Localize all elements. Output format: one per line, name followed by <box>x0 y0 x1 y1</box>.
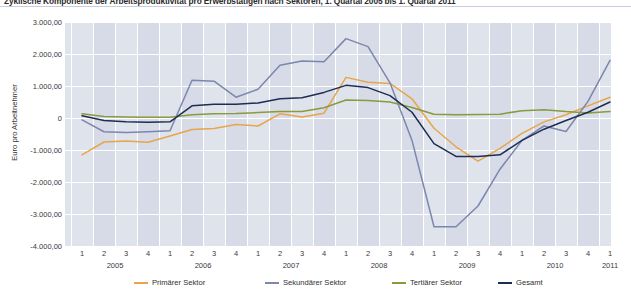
legend-item[interactable]: Sekundärer Sektor <box>265 277 346 289</box>
legend-item[interactable]: Tertiärer Sektor <box>392 277 462 289</box>
y-axis-tick: -2.000,00 <box>2 178 62 187</box>
legend-color-swatch <box>265 282 279 284</box>
x-axis-tick: 1 <box>72 249 92 259</box>
x-axis-tick: 4 <box>402 249 422 259</box>
series-line <box>82 77 610 161</box>
x-axis-tick: 3 <box>204 249 224 259</box>
y-axis-tick: -1.000,00 <box>2 146 62 155</box>
legend-color-swatch <box>392 282 406 284</box>
x-axis-year-label: 2010 <box>532 261 578 271</box>
x-axis-tick: 2 <box>182 249 202 259</box>
x-axis-tick: 1 <box>248 249 268 259</box>
x-axis-tick: 3 <box>380 249 400 259</box>
x-axis-tick: 1 <box>424 249 444 259</box>
legend-color-swatch <box>498 282 512 285</box>
series-line <box>82 100 610 117</box>
gridline <box>65 246 611 247</box>
y-axis-tick: -4.000,00 <box>2 242 62 251</box>
x-axis-tick: 1 <box>512 249 532 259</box>
x-axis-tick: 4 <box>578 249 598 259</box>
x-axis-tick: 3 <box>468 249 488 259</box>
y-axis-tick: -3.000,00 <box>2 210 62 219</box>
x-axis-tick: 3 <box>292 249 312 259</box>
legend-label: Tertiärer Sektor <box>410 277 462 289</box>
plot-area <box>65 22 611 246</box>
x-axis-year-labels: 2005200620072008200920102011 <box>65 261 611 272</box>
legend-item[interactable]: Primärer Sektor <box>134 277 205 289</box>
y-axis-ticks: 3.000,002.000,001.000,000-1.000,00-2.000… <box>0 22 62 246</box>
x-axis-tick: 2 <box>270 249 290 259</box>
x-axis-year-label: 2005 <box>92 261 138 271</box>
legend-color-swatch <box>134 282 148 284</box>
chart-figure: Zyklische Komponente der Arbeitsprodukti… <box>0 0 631 295</box>
x-axis-tick: 4 <box>314 249 334 259</box>
x-axis-year-label: 2009 <box>444 261 490 271</box>
y-axis-tick: 3.000,00 <box>2 18 62 27</box>
series-line <box>82 39 610 227</box>
x-axis-tick: 4 <box>490 249 510 259</box>
x-axis-quarter-ticks: 1234123412341234123412341 <box>65 249 611 260</box>
x-axis-tick: 3 <box>116 249 136 259</box>
title-divider <box>0 6 631 7</box>
series-line <box>82 85 610 156</box>
chart-legend: Primärer SektorSekundärer SektorTertiäre… <box>0 277 631 291</box>
x-axis-tick: 3 <box>556 249 576 259</box>
series-lines <box>65 22 611 246</box>
x-axis-tick: 4 <box>138 249 158 259</box>
legend-label: Primärer Sektor <box>152 277 205 289</box>
x-axis-tick: 2 <box>358 249 378 259</box>
x-axis-tick: 2 <box>94 249 114 259</box>
x-axis-year-label: 2011 <box>587 261 631 271</box>
x-axis-tick: 4 <box>226 249 246 259</box>
x-axis-tick: 2 <box>446 249 466 259</box>
y-axis-tick: 1.000,00 <box>2 82 62 91</box>
x-axis-tick: 1 <box>160 249 180 259</box>
y-axis-tick: 0 <box>2 114 62 123</box>
legend-label: Gesamt <box>516 277 543 289</box>
x-axis-year-label: 2006 <box>180 261 226 271</box>
x-axis-tick: 1 <box>336 249 356 259</box>
x-axis-tick: 1 <box>600 249 620 259</box>
x-axis-tick: 2 <box>534 249 554 259</box>
y-axis-tick: 2.000,00 <box>2 50 62 59</box>
legend-label: Sekundärer Sektor <box>283 277 346 289</box>
legend-item[interactable]: Gesamt <box>498 277 543 289</box>
x-axis-year-label: 2008 <box>356 261 402 271</box>
x-axis-year-label: 2007 <box>268 261 314 271</box>
